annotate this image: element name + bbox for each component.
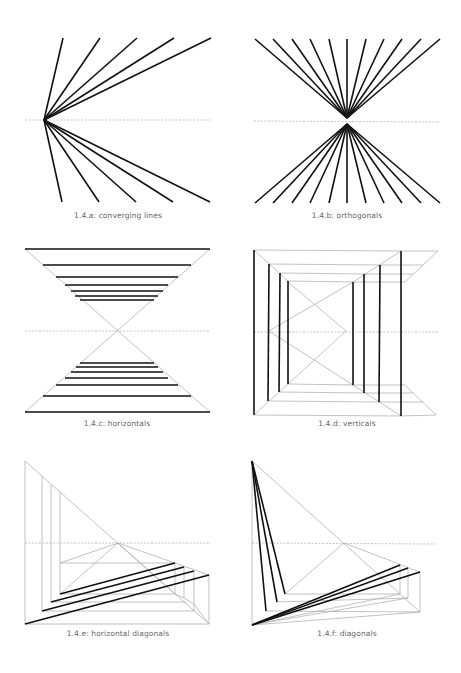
emphasis-line [347,124,384,203]
caption-verticals: 1.4.d: verticals [318,419,375,428]
construction-line [194,604,209,624]
construction-line [254,384,288,415]
emphasis-line [252,461,285,594]
caption-horizontal-diagonals: 1.4.e: horizontal diagonals [67,629,169,638]
emphasis-line [44,38,137,120]
caption-converging-lines: 1.4.a: converging lines [74,211,162,220]
construction-line [288,331,346,384]
caption-orthogonals: 1.4.b: orthogonals [312,211,382,220]
construction-line [288,384,353,385]
construction-line [118,543,209,575]
caption-diagonals: 1.4.f: diagonals [317,629,376,638]
emphasis-line [44,120,173,202]
emphasis-line [347,39,366,118]
construction-line [269,264,380,265]
emphasis-line [310,124,347,203]
construction-line [401,415,436,416]
emphasis-line [252,565,400,625]
construction-line [405,251,438,282]
emphasis-line [44,120,210,202]
emphasis-line [273,39,347,118]
construction-line [254,415,401,416]
figure-diagonals [252,461,437,625]
construction-line [353,251,401,282]
emphasis-line [310,39,347,118]
emphasis-line [252,461,277,602]
figure-verticals [254,250,438,416]
figure-horizontal-diagonals [25,461,211,624]
construction-line [280,273,364,274]
construction-line [254,250,288,281]
construction-line [288,281,353,282]
construction-line [405,385,436,415]
emphasis-line [273,124,347,203]
construction-line [288,282,346,331]
construction-line [269,401,380,402]
construction-line [269,282,353,331]
emphasis-line [44,38,174,120]
construction-line [254,250,401,251]
emphasis-line [279,273,280,392]
perspective-diagrams-canvas [0,0,461,673]
emphasis-line [252,461,266,611]
figure-horizontals [25,249,210,412]
construction-line [60,543,118,563]
construction-line [285,543,344,594]
emphasis-line [268,264,269,401]
construction-line [353,385,401,416]
emphasis-line [347,39,384,118]
figure-converging-lines [25,38,211,202]
construction-line [344,543,420,572]
emphasis-line [44,38,63,120]
emphasis-line [347,39,421,118]
caption-horizontals: 1.4.c: horizontals [84,419,150,428]
construction-line [400,594,420,612]
emphasis-line [379,265,380,402]
figure-orthogonals [254,39,440,203]
emphasis-line [347,124,421,203]
horizon-line [254,121,440,122]
emphasis-line [347,124,366,203]
construction-line [280,392,364,393]
emphasis-line [44,38,211,120]
construction-line [269,331,353,385]
